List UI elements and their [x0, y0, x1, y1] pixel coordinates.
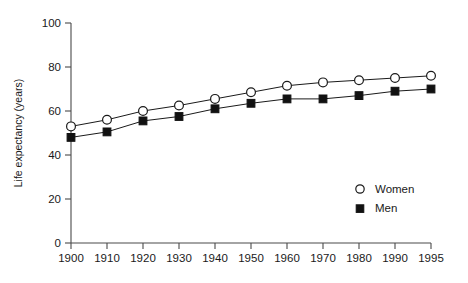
x-tick-label: 1960	[274, 252, 300, 264]
x-axis-tick-labels: 1900 1910 1920 1930 1940 1950 1960 1970 …	[58, 252, 444, 264]
y-tick-label: 80	[48, 61, 61, 73]
data-point-open-circle	[391, 74, 400, 83]
x-tick-label: 1930	[166, 252, 192, 264]
x-tick-label: 1995	[418, 252, 444, 264]
x-tick-label: 1950	[238, 252, 264, 264]
y-axis-tick-labels: 0 20 40 60 80 100	[42, 17, 61, 249]
data-series-layer	[67, 71, 436, 141]
y-tick-label: 0	[55, 237, 61, 249]
data-point-filled-square	[67, 134, 75, 142]
x-tick-label: 1910	[94, 252, 120, 264]
filled-square-icon	[356, 205, 364, 213]
chart-legend: Women Men	[356, 183, 415, 214]
data-point-filled-square	[139, 117, 147, 125]
data-point-filled-square	[319, 95, 327, 103]
data-point-filled-square	[283, 95, 291, 103]
data-point-filled-square	[175, 113, 183, 121]
data-point-open-circle	[355, 76, 364, 85]
x-tick-label: 1920	[130, 252, 156, 264]
x-tick-label: 1990	[382, 252, 408, 264]
data-point-open-circle	[211, 95, 220, 104]
x-tick-label: 1940	[202, 252, 228, 264]
data-point-open-circle	[427, 71, 436, 80]
x-tick-label: 1970	[310, 252, 336, 264]
y-tick-label: 60	[48, 105, 61, 117]
data-point-filled-square	[391, 87, 399, 95]
life-expectancy-chart: Life expectancy (years) 0 20 40 60 80 10…	[0, 0, 468, 283]
data-point-open-circle	[247, 88, 256, 97]
legend-entry-women: Women	[356, 183, 415, 195]
data-point-filled-square	[211, 105, 219, 113]
data-point-open-circle	[319, 78, 328, 87]
data-point-open-circle	[283, 81, 292, 90]
data-point-filled-square	[247, 99, 255, 107]
legend-entry-men: Men	[356, 202, 397, 214]
data-point-open-circle	[175, 101, 184, 110]
data-point-open-circle	[67, 122, 76, 131]
data-point-filled-square	[427, 85, 435, 93]
legend-label: Men	[375, 202, 397, 214]
data-point-open-circle	[103, 115, 112, 124]
x-tick-label: 1900	[58, 252, 84, 264]
y-tick-label: 100	[42, 17, 61, 29]
y-axis-title: Life expectancy (years)	[12, 79, 24, 188]
legend-label: Women	[375, 183, 414, 195]
data-point-filled-square	[103, 128, 111, 136]
data-point-filled-square	[355, 92, 363, 100]
x-tick-label: 1980	[346, 252, 372, 264]
chart-canvas: Life expectancy (years) 0 20 40 60 80 10…	[0, 0, 468, 283]
x-axis-ticks	[71, 243, 431, 249]
y-tick-label: 40	[48, 149, 61, 161]
data-point-open-circle	[139, 107, 148, 116]
open-circle-icon	[356, 185, 364, 193]
y-tick-label: 20	[48, 193, 61, 205]
